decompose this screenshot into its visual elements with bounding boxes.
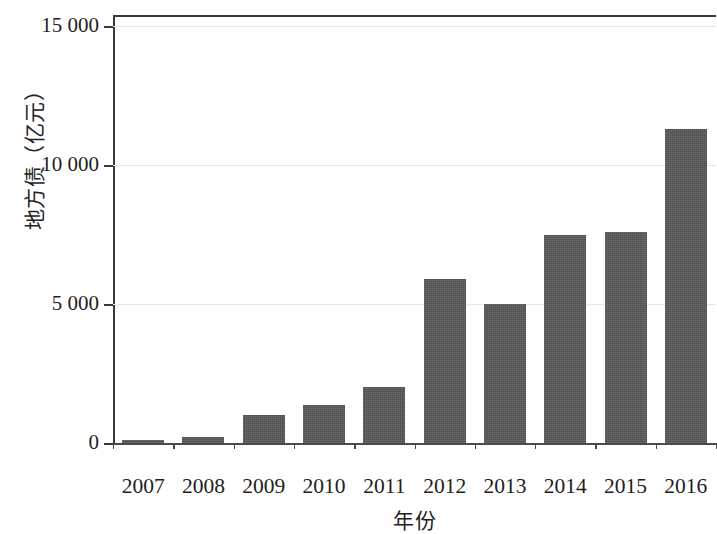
x-tick-mark xyxy=(173,443,174,449)
bars-layer xyxy=(113,26,716,443)
bar xyxy=(484,304,526,443)
plot-area: 05 00010 00015 000 200720082009201020112… xyxy=(113,26,716,443)
x-tick-mark xyxy=(415,443,416,449)
bar xyxy=(243,415,285,443)
x-axis-title: 年份 xyxy=(113,504,716,534)
x-tick-mark xyxy=(294,443,295,449)
y-tick-label: 10 000 xyxy=(41,152,99,177)
x-tick-mark xyxy=(354,443,355,449)
x-tick-mark xyxy=(234,443,235,449)
y-tick-mark xyxy=(104,443,113,445)
x-tick-mark xyxy=(656,443,657,449)
x-tick-label: 2009 xyxy=(234,474,294,499)
bar xyxy=(544,235,586,444)
x-tick-mark xyxy=(113,443,114,449)
bar xyxy=(303,405,345,443)
y-tick-label: 5 000 xyxy=(52,291,99,316)
x-tick-label: 2014 xyxy=(535,474,595,499)
x-tick-label: 2011 xyxy=(354,474,414,499)
x-tick-label: 2007 xyxy=(113,474,173,499)
y-tick-mark xyxy=(104,26,113,28)
y-tick-label: 15 000 xyxy=(41,13,99,38)
x-tick-mark xyxy=(535,443,536,449)
axis-top-spine xyxy=(113,15,716,17)
x-tick-mark xyxy=(475,443,476,449)
x-tick-label: 2008 xyxy=(173,474,233,499)
y-tick-mark xyxy=(104,165,113,167)
y-tick-label: 0 xyxy=(89,430,100,455)
bar xyxy=(424,279,466,443)
bar xyxy=(605,232,647,443)
bar xyxy=(363,387,405,443)
x-tick-label: 2012 xyxy=(415,474,475,499)
bar xyxy=(665,129,707,443)
bar xyxy=(122,440,164,443)
x-tick-label: 2013 xyxy=(475,474,535,499)
x-tick-label: 2016 xyxy=(656,474,716,499)
x-tick-mark xyxy=(595,443,596,449)
x-tick-label: 2015 xyxy=(595,474,655,499)
bar xyxy=(182,437,224,443)
x-tick-label: 2010 xyxy=(294,474,354,499)
y-tick-mark xyxy=(104,304,113,306)
